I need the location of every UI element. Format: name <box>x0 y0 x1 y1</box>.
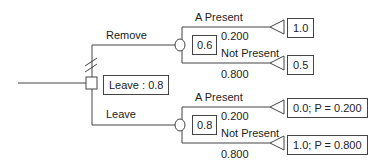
outcome-probability: 0.200 <box>221 110 249 122</box>
payoff-value: 1.0; P = 0.800 <box>293 139 362 151</box>
branch-label-remove: Remove <box>106 29 147 41</box>
decision-value: Leave : 0.8 <box>109 79 163 91</box>
outcome-label: A Present <box>195 91 243 103</box>
chance-circle-icon <box>175 119 185 131</box>
chance-value: 0.8 <box>197 119 212 131</box>
payoff-box: 0.5 <box>287 55 314 75</box>
outcome-label: Not Present <box>221 127 279 139</box>
outcome-probability: 0.200 <box>221 30 249 42</box>
payoff-value: 0.0; P = 0.200 <box>293 102 362 114</box>
outcome-probability: 0.800 <box>221 148 249 160</box>
chance-value-box: 0.6 <box>192 35 217 55</box>
payoff-box: 1.0; P = 0.800 <box>287 135 368 155</box>
chance-circle-icon <box>175 39 185 51</box>
outcome-probability: 0.800 <box>221 68 249 80</box>
terminal-triangle-icon <box>270 100 284 114</box>
decision-square-icon <box>86 77 97 89</box>
payoff-value: 0.5 <box>293 59 308 71</box>
outcome-label: A Present <box>195 11 243 23</box>
payoff-value: 1.0 <box>293 22 308 34</box>
payoff-box: 0.0; P = 0.200 <box>287 98 368 118</box>
terminal-triangle-icon <box>270 20 284 34</box>
outcome-label: Not Present <box>221 47 279 59</box>
chance-value-box: 0.8 <box>192 115 217 135</box>
branch-label-leave: Leave <box>106 108 136 120</box>
decision-value-box: Leave : 0.8 <box>103 75 169 95</box>
payoff-box: 1.0 <box>287 18 314 38</box>
chance-value: 0.6 <box>197 39 212 51</box>
